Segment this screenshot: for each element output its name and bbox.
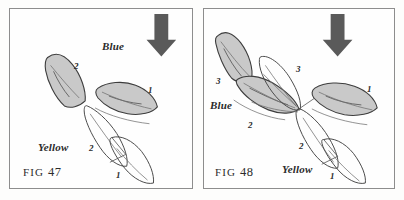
- fig-47-drawing: [10, 9, 192, 188]
- crossing-guideline-fig-48: [299, 98, 315, 109]
- blue-boat-3-fig-48: [215, 33, 252, 82]
- wind-arrow-fig-47: [147, 14, 177, 57]
- fig-48-drawing: [204, 9, 394, 188]
- yellow-boat-1-fig-48: [322, 139, 366, 184]
- blue-boat-1-fig-48: [312, 83, 377, 125]
- blue-boat-1-fig-47: [95, 82, 157, 123]
- panel-fig-48: 3 Blue 2 1 3 2 1 Yellow FIG 48: [203, 8, 395, 189]
- figure-canvas: Blue Yellow 2 1 2 1 FIG 47: [0, 0, 404, 200]
- wind-arrow-fig-48: [323, 14, 353, 57]
- panel-fig-47: Blue Yellow 2 1 2 1 FIG 47: [9, 8, 193, 189]
- blue-boat-2-fig-47: [45, 54, 85, 107]
